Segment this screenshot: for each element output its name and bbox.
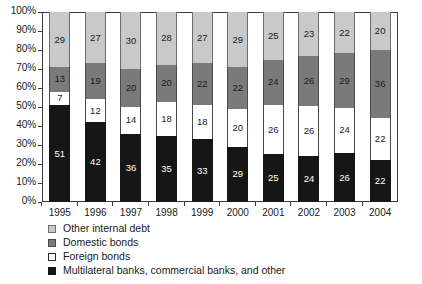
bar-segment-value: 12 [90,106,101,116]
bar-segment: 29 [334,53,355,108]
bar-segment-value: 26 [304,76,315,86]
bar-segment: 20 [156,65,177,103]
legend-item-label: Multilateral banks, commercial banks, an… [63,264,285,277]
x-axis-tick-label: 1995 [49,207,71,222]
bar-segment-value: 20 [232,123,243,133]
x-axis-tick-mark [219,202,220,206]
x-axis-tick-mark [112,202,113,206]
bar-segment-value: 33 [197,166,208,176]
legend-item: Other internal debt [48,222,408,235]
x-axis-tick-label: 2000 [227,207,249,222]
x-axis-tick: 2001 [263,202,284,222]
bar-segment: 22 [192,63,213,105]
bar-segment-value: 25 [268,31,279,41]
bar-segment-value: 26 [268,125,279,135]
bar-column: 28201835 [156,12,177,202]
x-axis-tick-mark [326,202,327,206]
bar-segment: 25 [263,154,284,202]
y-axis-tick-label: 40% [16,119,36,131]
bar-segment: 22 [370,118,391,160]
legend-item: Domestic bonds [48,236,408,249]
bar-segment-value: 19 [90,76,101,86]
y-axis: 0%10%20%30%40%50%60%70%80%90%100% [0,12,42,202]
x-axis-tick-mark [184,202,185,206]
y-axis-tick-label: 20% [16,157,36,169]
legend-item-label: Other internal debt [63,222,150,235]
bar-segment: 26 [298,106,319,156]
bar-segment-value: 24 [304,174,315,184]
y-axis-tick-label: 50% [16,100,36,112]
bar-segment-value: 27 [90,33,101,43]
stacked-bar-chart: 0%10%20%30%40%50%60%70%80%90%100% 291375… [0,0,422,284]
bar-segment: 36 [370,50,391,118]
bars-layer: 2913751271912423020143628201835272218332… [42,12,398,202]
bar-segment-value: 36 [126,163,137,173]
bar-column: 22292426 [334,12,355,202]
legend-item: Foreign bonds [48,250,408,263]
x-axis-tick-label: 2002 [298,207,320,222]
y-axis-tick-label: 100% [11,5,36,17]
x-axis-tick: 2003 [334,202,355,222]
bar-segment: 28 [156,12,177,65]
legend-swatch-icon [48,267,56,275]
bar-segment-value: 24 [268,77,279,87]
bar-column: 29222029 [227,12,248,202]
bar-segment-value: 42 [90,157,101,167]
x-axis-tick-mark [77,202,78,206]
bar-segment: 29 [227,147,248,202]
x-axis-tick: 1995 [49,202,70,222]
y-axis-tick-label: 80% [16,43,36,55]
bar-segment-value: 29 [55,35,66,45]
x-axis-tick: 1999 [192,202,213,222]
x-axis-tick: 1997 [120,202,141,222]
bar-segment: 27 [85,12,106,63]
bar-segment-value: 24 [339,125,350,135]
bar-column: 25242625 [263,12,284,202]
y-axis-tick-label: 90% [16,24,36,36]
bar-segment-value: 22 [232,83,243,93]
bar-segment: 29 [49,12,70,67]
legend-swatch-icon [48,253,56,261]
bar-segment: 26 [298,56,319,106]
bar-column: 23262624 [298,12,319,202]
bar-segment: 20 [227,109,248,147]
bar-segment-value: 36 [375,79,386,89]
bar-segment: 23 [298,12,319,56]
legend-item-label: Foreign bonds [63,250,130,263]
bar-segment: 30 [120,12,141,69]
bar-segment: 24 [298,156,319,202]
bar-segment: 20 [120,69,141,107]
bar-segment: 29 [227,12,248,67]
bar-segment: 18 [156,102,177,136]
bar-segment-value: 23 [304,29,315,39]
bar-segment: 24 [334,108,355,153]
bar-segment-value: 18 [161,114,172,124]
bar-column: 27221833 [192,12,213,202]
bar-segment: 25 [263,12,284,60]
x-axis-tick: 2004 [370,202,391,222]
bar-segment-value: 13 [55,74,66,84]
bar-segment: 27 [192,12,213,63]
bar-segment: 22 [370,160,391,202]
bar-segment-value: 27 [197,33,208,43]
bar-column: 2913751 [49,12,70,202]
x-axis-tick-label: 2003 [333,207,355,222]
bar-segment-value: 20 [375,26,386,36]
x-axis-tick-label: 1997 [120,207,142,222]
bar-column: 20362222 [370,12,391,202]
x-axis-tick-mark [41,202,42,206]
bar-segment-value: 14 [126,115,137,125]
y-axis-tick-label: 70% [16,62,36,74]
legend-swatch-icon [48,239,56,247]
bar-segment-value: 25 [268,173,279,183]
x-axis-tick-mark [255,202,256,206]
bar-segment-value: 20 [126,83,137,93]
bar-segment-value: 20 [161,78,172,88]
x-axis-tick-mark [362,202,363,206]
bar-segment-value: 29 [232,169,243,179]
bar-segment: 14 [120,107,141,134]
bar-segment: 26 [334,153,355,202]
bar-segment-value: 26 [339,173,350,183]
bar-segment-value: 26 [304,126,315,136]
bar-segment: 33 [192,139,213,202]
